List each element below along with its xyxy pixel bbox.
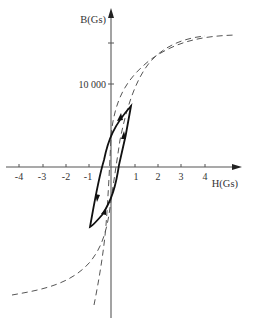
x-tick-label: -4 [15, 171, 23, 182]
arrow-up-icon [117, 113, 123, 121]
y-axis-label: B(Gs) [80, 14, 106, 26]
x-axis-arrow-icon [232, 164, 242, 170]
hysteresis-chart: -4 -3 -2 -1 1 2 3 4 10 000 B(Gs) H(Gs) [0, 0, 253, 325]
y-tick-label: 10 000 [79, 79, 107, 90]
x-tick-label: 3 [179, 171, 184, 182]
x-tick-label: 1 [134, 171, 139, 182]
x-tick-label: -1 [84, 171, 92, 182]
x-tick-label: 4 [203, 171, 208, 182]
x-tick-label: 2 [156, 171, 161, 182]
arrow-up-icon [101, 208, 106, 215]
x-tick-label: -3 [38, 171, 46, 182]
x-axis-label: H(Gs) [212, 178, 239, 190]
major-loop-lower-branch [12, 36, 205, 295]
x-tick-label: -2 [62, 171, 70, 182]
y-axis-arrow-icon [108, 8, 114, 18]
